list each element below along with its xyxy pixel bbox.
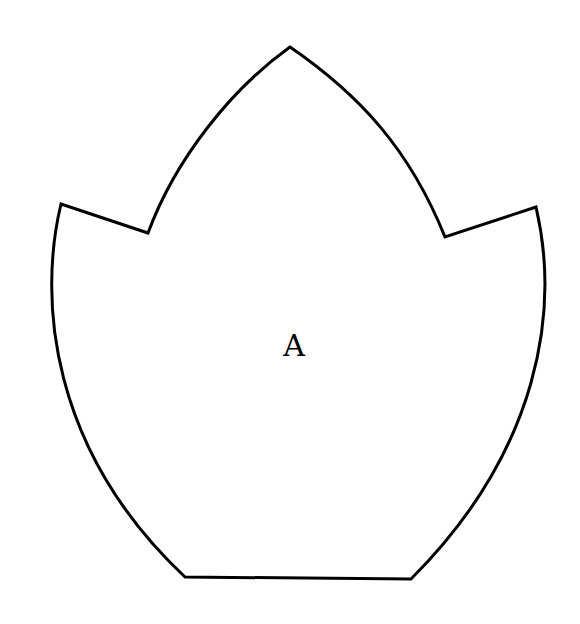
tulip-shape-outline: [52, 47, 545, 579]
shape-label: A: [282, 328, 305, 363]
diagram-canvas: A: [0, 0, 580, 624]
